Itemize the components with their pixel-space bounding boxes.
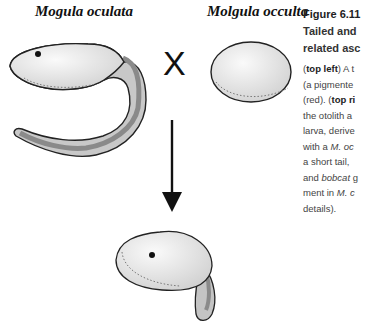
caption-line: with a M. oc [303,139,365,155]
hybrid-otolith-icon [149,252,155,258]
caption-line: larva, derive [303,123,365,139]
figure-title-line1: Tailed and [303,23,365,40]
larva-head [10,44,124,90]
figure-caption: Figure 6.11 Tailed and related asc (top … [303,6,365,216]
caption-line: (top left) A t [303,61,365,77]
cross-symbol: X [163,44,186,83]
down-arrow-icon [162,120,182,212]
caption-line: a short tail, [303,154,365,170]
caption-line: and bobcat g [303,170,365,186]
caption-line: (a pigmente [303,77,365,93]
figure-number: Figure 6.11 [303,6,365,23]
figure-title-line2: related asc [303,40,365,57]
caption-line: ment in M. c [303,185,365,201]
hybrid-cross-diagram [0,0,300,329]
caption-line: details). [303,201,365,217]
caption-body: (top left) A t (a pigmente (red). (top r… [303,61,365,216]
caption-line: (red). (top ri [303,92,365,108]
hybrid-larva [116,231,215,320]
tailless-larva-occulta [211,42,291,102]
otolith-eye-icon [35,51,41,57]
tailed-larva-oculata [10,44,146,157]
caption-line: the otolith a [303,108,365,124]
